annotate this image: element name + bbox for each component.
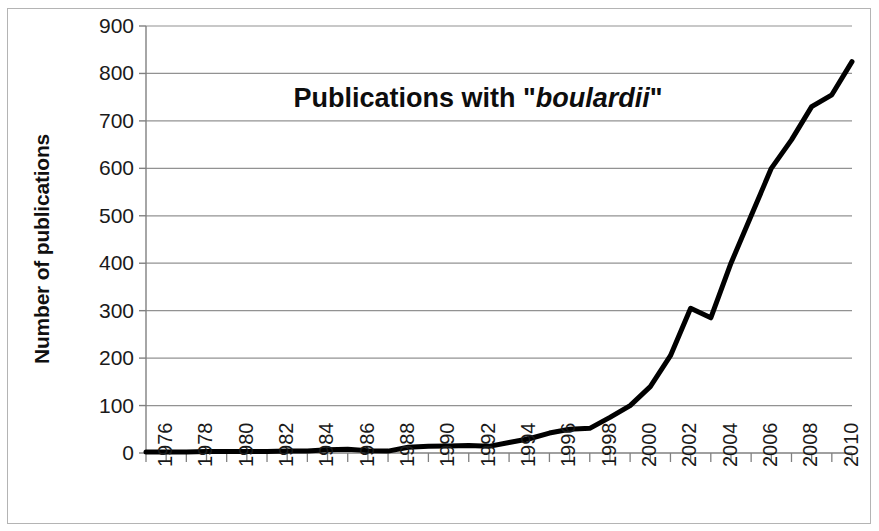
chart-root: Number of publications 90080070060050040… [0,0,879,531]
x-tick-label: 2008 [799,423,822,468]
x-tick-label: 2004 [719,423,742,468]
x-tick-label: 1986 [356,423,379,468]
chart-title-quote-close: " [650,83,663,113]
x-tick-label: 1998 [598,423,621,468]
x-tick-label: 1978 [194,423,217,468]
x-tick-label: 1988 [396,423,419,468]
x-tick-label: 2002 [678,423,701,468]
x-tick-label: 1980 [235,423,258,468]
x-tick-label: 2010 [840,423,863,468]
x-tick-label: 1992 [477,423,500,468]
x-tick-label: 1996 [557,423,580,468]
x-tick-label: 2000 [638,423,661,468]
chart-title-quote-open: " [523,83,536,113]
x-tick-label: 1990 [436,423,459,468]
x-tick-label: 1982 [275,423,298,468]
chart-title-italic-term: boulardii [536,83,650,113]
x-tick-label: 1994 [517,423,540,468]
chart-frame: Number of publications 90080070060050040… [7,8,871,524]
x-tick-label: 1984 [315,423,338,468]
chart-title: Publications with "boulardii" [158,83,798,114]
x-tick-label: 1976 [154,423,177,468]
chart-title-text: Publications with [293,83,523,113]
x-tick-label: 2006 [759,423,782,468]
